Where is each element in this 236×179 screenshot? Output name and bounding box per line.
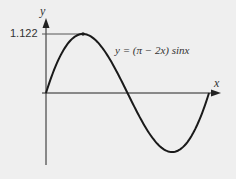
y-axis-label: y xyxy=(40,4,45,19)
max-value-label: 1.122 xyxy=(10,27,38,39)
y-axis-arrow-icon xyxy=(43,18,50,28)
x-axis-label: x xyxy=(214,76,219,91)
equation-label: y = (π − 2x) sinx xyxy=(115,44,189,56)
